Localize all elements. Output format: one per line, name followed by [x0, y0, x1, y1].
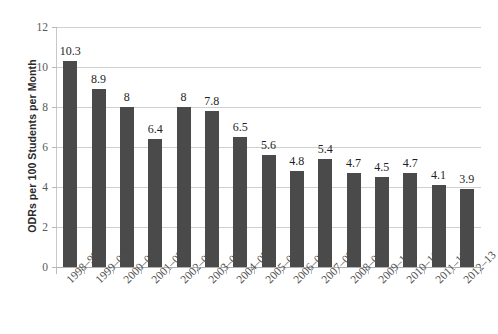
x-tick-mark: [84, 268, 85, 274]
x-tick-mark: [424, 268, 425, 274]
x-tick-mark: [368, 268, 369, 274]
bar[interactable]: [177, 107, 191, 267]
bar-value-label: 4.7: [403, 156, 418, 171]
gridline: [56, 67, 481, 68]
x-tick-mark: [226, 268, 227, 274]
bar-value-label: 4.5: [374, 160, 389, 175]
x-tick-mark: [453, 268, 454, 274]
bar-chart: ODRs per 100 Students per Month 02468101…: [0, 0, 498, 334]
x-tick-mark: [311, 268, 312, 274]
bar-value-label: 6.4: [148, 122, 163, 137]
bar-value-label: 8: [181, 90, 187, 105]
bar-value-label: 6.5: [233, 120, 248, 135]
bar-value-label: 8.9: [91, 72, 106, 87]
x-tick-mark: [283, 268, 284, 274]
y-tick-label: 6: [42, 141, 48, 153]
bar-value-label: 5.6: [261, 138, 276, 153]
y-tick-mark: [52, 107, 57, 108]
gridline: [56, 27, 481, 28]
x-tick-mark: [254, 268, 255, 274]
x-tick-mark: [169, 268, 170, 274]
y-tick-label: 0: [42, 261, 48, 273]
bar[interactable]: [233, 137, 247, 267]
bar[interactable]: [205, 111, 219, 267]
x-tick-mark: [396, 268, 397, 274]
plot-area: 02468101210.38.986.487.86.55.64.85.44.74…: [56, 27, 481, 267]
y-tick-mark: [52, 187, 57, 188]
y-tick-label: 10: [37, 61, 49, 73]
clipped-title-artifact: [0, 0, 498, 6]
y-tick-mark: [52, 227, 57, 228]
bar[interactable]: [63, 61, 77, 267]
bar[interactable]: [148, 139, 162, 267]
bar-value-label: 7.8: [204, 94, 219, 109]
x-tick-mark: [339, 268, 340, 274]
bar-value-label: 8: [124, 90, 130, 105]
x-tick-mark: [113, 268, 114, 274]
bar-value-label: 3.9: [459, 172, 474, 187]
y-tick-mark: [52, 147, 57, 148]
x-tick-mark: [141, 268, 142, 274]
x-tick-mark: [56, 268, 57, 274]
bar-value-label: 4.7: [346, 156, 361, 171]
bar[interactable]: [120, 107, 134, 267]
x-tick-mark: [198, 268, 199, 274]
y-tick-label: 4: [42, 181, 48, 193]
bar[interactable]: [92, 89, 106, 267]
y-tick-mark: [52, 67, 57, 68]
y-tick-label: 12: [37, 21, 49, 33]
y-tick-label: 2: [42, 221, 48, 233]
y-tick-label: 8: [42, 101, 48, 113]
x-tick-mark: [481, 268, 482, 274]
bar-value-label: 5.4: [318, 142, 333, 157]
y-tick-mark: [52, 27, 57, 28]
bar-value-label: 10.3: [60, 44, 81, 59]
bar-value-label: 4.8: [289, 154, 304, 169]
bar-value-label: 4.1: [431, 168, 446, 183]
